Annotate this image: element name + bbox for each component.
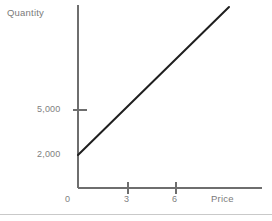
y-tick-label-5000: 5,000 xyxy=(37,104,61,115)
y-axis-label: Quantity xyxy=(7,7,44,18)
x-tick-label-3: 3 xyxy=(124,194,129,205)
y-tick-label-2000: 2,000 xyxy=(37,149,61,160)
supply-curve-line xyxy=(78,7,229,155)
chart-container: Quantity Price 5,000 2,000 0 3 6 xyxy=(0,0,272,221)
x-tick-label-6: 6 xyxy=(172,194,177,205)
x-axis-label: Price xyxy=(211,193,234,204)
bottom-divider xyxy=(0,214,272,215)
x-tick-label-0: 0 xyxy=(65,194,70,205)
